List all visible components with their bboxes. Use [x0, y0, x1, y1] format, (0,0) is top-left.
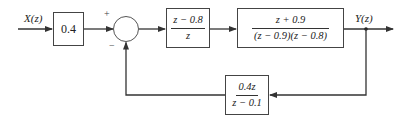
controller-transfer-function: z − 0.8 z: [171, 14, 205, 41]
plant-block: z + 0.9 (z − 0.9)(z − 0.8): [237, 8, 344, 48]
controller-denominator: z: [184, 29, 192, 42]
feedback-transfer-function: 0.4z z − 0.1: [230, 81, 264, 108]
feedback-numerator: 0.4z: [236, 81, 257, 95]
gain-value: 0.4: [61, 22, 76, 37]
controller-block: z − 0.8 z: [166, 8, 210, 48]
output-label: Y(z): [355, 13, 373, 24]
summing-junction: [114, 17, 139, 42]
feedback-block: 0.4z z − 0.1: [225, 75, 269, 115]
input-label: X(z): [24, 13, 42, 24]
feedback-path-left: [126, 43, 225, 96]
gain-block: 0.4: [53, 12, 84, 46]
controller-numerator: z − 0.8: [171, 14, 205, 28]
minus-sign: −: [109, 41, 115, 51]
plant-numerator: z + 0.9: [252, 14, 329, 28]
plus-sign: +: [104, 9, 110, 19]
plant-denominator: (z − 0.9)(z − 0.8): [252, 29, 329, 42]
feedback-denominator: z − 0.1: [230, 96, 264, 109]
plant-transfer-function: z + 0.9 (z − 0.9)(z − 0.8): [252, 14, 329, 41]
